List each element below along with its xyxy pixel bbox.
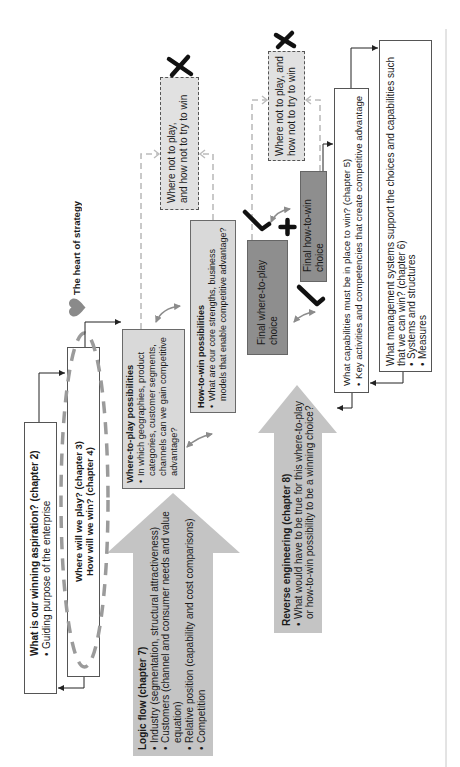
final-how-line-2: choice (314, 172, 326, 272)
final-how-to-where-not-connector (306, 100, 320, 171)
management-systems-box: What management systems support the choi… (379, 40, 432, 372)
how-will-we-win-label: How will we win? (chapter 4) (84, 348, 95, 676)
final-where-to-where-not-connector (252, 100, 267, 240)
capabilities-title: What capabilities must be in place to wi… (341, 91, 353, 386)
reverse-engineering-bullet: What would have to be true for this wher… (293, 394, 316, 626)
final-how-line-1: Final how-to-win (302, 172, 314, 272)
final-choice-to-capabilities-connector (323, 144, 333, 171)
double-arrow-icon (187, 434, 212, 447)
winning-aspiration-box: What is our winning aspiration? (chapter… (24, 422, 57, 694)
heart-of-strategy-label: The heart of strategy (71, 196, 85, 297)
x-mark-icon (169, 57, 191, 75)
check-mark-icon (299, 287, 323, 304)
final-where-line-1: Final where-to-play (256, 241, 268, 345)
final-where-line-2: choice (268, 241, 280, 345)
how-to-win-possibilities-bullet: What are our core strengths, business mo… (207, 223, 229, 408)
capabilities-feedback-connector (337, 393, 352, 408)
logic-flow-text: Logic flow (chapter 7) Industry (segment… (137, 505, 213, 753)
where-not-line-1: Where not to play, and (274, 52, 286, 156)
logic-flow-bullet: Competition (196, 505, 208, 750)
where-not-line-2: and how not to try to win (178, 78, 190, 203)
heart-icon (69, 299, 86, 317)
double-arrow-icon (156, 306, 180, 322)
how-to-win-to-where-not-connector (200, 154, 213, 220)
where-to-play-to-where-not-connector (141, 154, 159, 329)
where-not-line-2: how not to try to win (286, 52, 298, 156)
logic-flow-bullet: Relative position (capability and cost c… (184, 505, 196, 750)
how-to-win-possibilities-title: How-to-win possibilities (196, 223, 207, 408)
strategy-choice-cascade-diagram: What is our winning aspiration? (chapter… (0, 0, 460, 767)
logic-flow-title: Logic flow (chapter 7) (137, 505, 149, 750)
management-systems-title: What management systems support the choi… (386, 42, 407, 366)
logic-flow-bullet: Industry (segmentation, structural attra… (149, 505, 161, 750)
management-feedback-connector (370, 372, 403, 383)
final-where-to-play-choice-box: Final where-to-play choice (247, 240, 288, 355)
check-mark-icon (245, 212, 269, 229)
how-to-win-possibilities-box: How-to-win possibilities What are our co… (190, 220, 236, 413)
reverse-engineering-title: Reverse engineering (chapter 8) (281, 394, 293, 626)
where-how-back-to-aspiration-connector (58, 677, 84, 688)
capabilities-bullet: Key activities and competencies that cre… (353, 91, 365, 386)
logic-flow-bullet: Customers (channel and consumer needs an… (160, 505, 183, 750)
winning-aspiration-title: What is our winning aspiration? (chapter… (29, 423, 41, 656)
x-mark-icon (276, 33, 294, 47)
where-to-play-possibilities-title: Where-to-play possibilities (125, 331, 136, 483)
where-not-to-play-box-1: Where not to play, and how not to try to… (160, 77, 199, 210)
capabilities-box: What capabilities must be in place to wi… (334, 88, 369, 393)
winning-aspiration-bullet: Guiding purpose of the enterprise (41, 423, 53, 656)
plus-icon (281, 220, 295, 234)
double-arrow-icon (271, 209, 290, 222)
double-arrow-icon (294, 312, 315, 322)
aspiration-to-where-how-connector (39, 373, 65, 422)
where-to-play-possibilities-bullet: In which geographies, product categories… (136, 331, 180, 483)
where-will-we-play-label: Where will we play? (chapter 3) (73, 348, 84, 676)
where-not-to-play-box-2: Where not to play, and how not to try to… (268, 51, 305, 161)
reverse-engineering-text: Reverse engineering (chapter 8) What wou… (281, 394, 322, 630)
capabilities-to-management-connector (351, 48, 378, 88)
where-play-how-win-box: Where will we play? (chapter 3) How will… (67, 347, 100, 677)
where-not-line-1: Where not to play, (166, 78, 178, 203)
management-systems-bullet: Measures (418, 42, 429, 366)
final-how-to-win-choice-box: Final how-to-win choice (300, 171, 327, 282)
where-to-play-possibilities-box: Where-to-play possibilities In which geo… (122, 329, 185, 489)
where-how-to-possibilities-connector (85, 322, 121, 347)
